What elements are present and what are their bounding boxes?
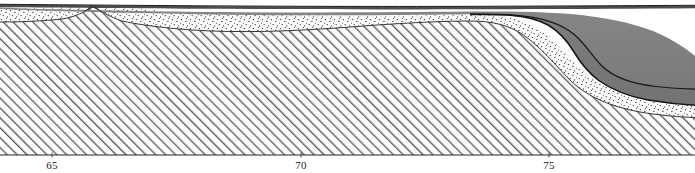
axis-tick-label-70: 70 — [295, 159, 306, 171]
axis-tick-label-65: 65 — [46, 159, 57, 171]
axis-tick-label-75: 75 — [543, 159, 554, 171]
geologic-cross-section-figure: 65 70 75 — [0, 0, 695, 173]
cross-section-canvas — [0, 0, 695, 173]
